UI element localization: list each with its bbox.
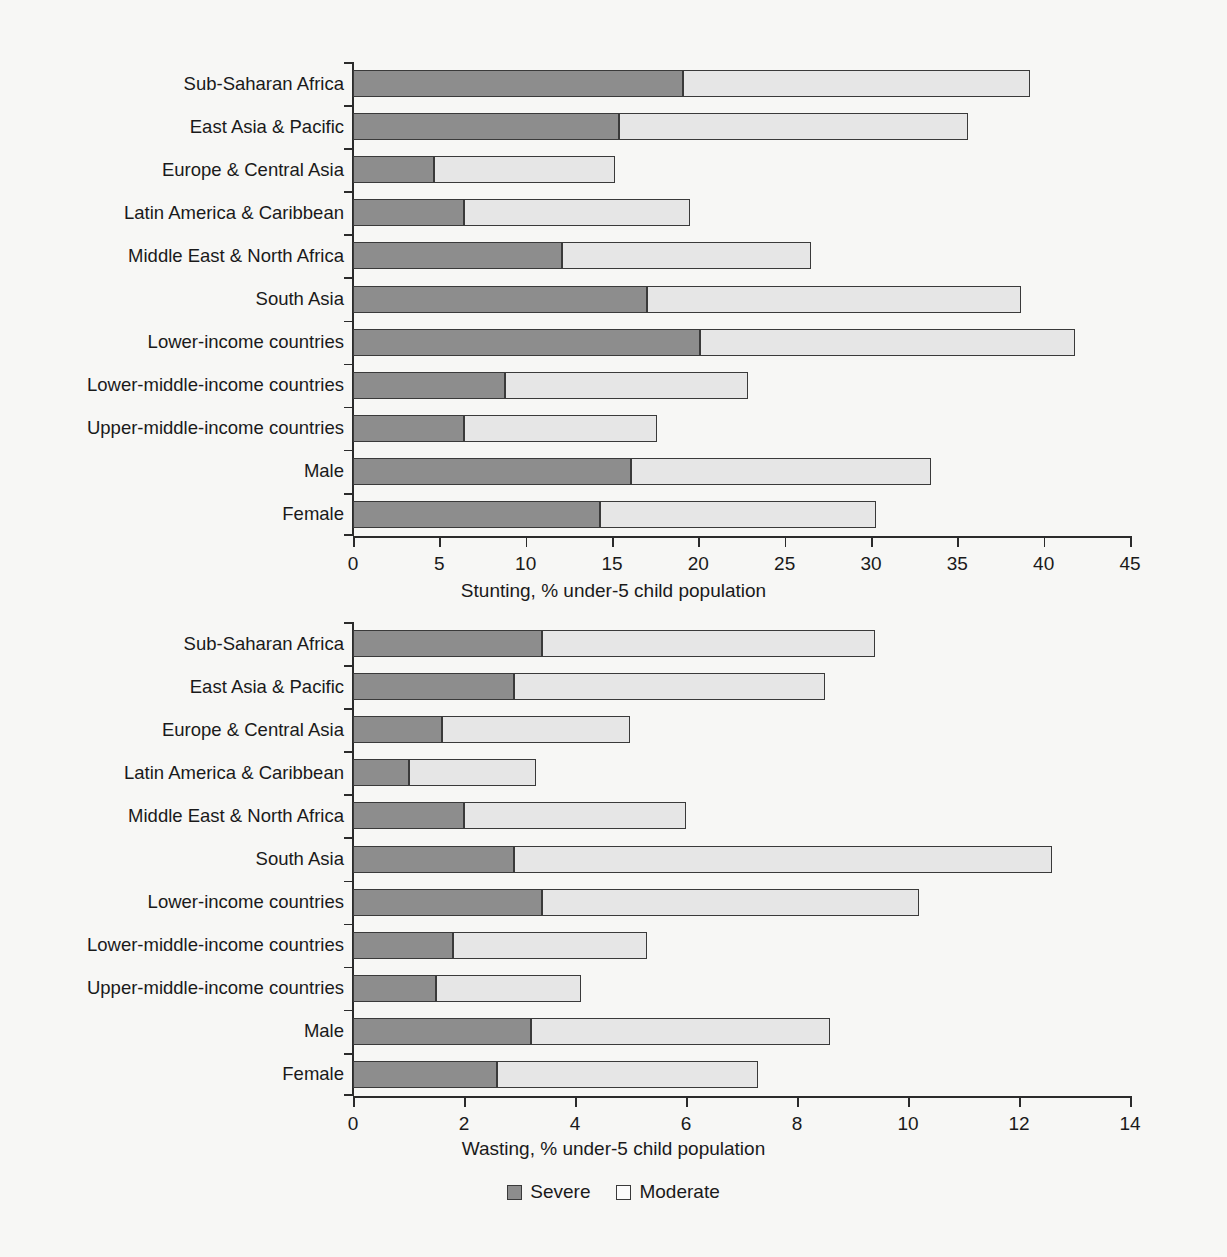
x-axis-tick-label: 35 <box>947 553 968 575</box>
bar-segment-moderate[interactable] <box>434 156 615 183</box>
bar-row: Lower-income countries <box>353 889 1130 916</box>
x-axis-tick-label: 30 <box>860 553 881 575</box>
bar-segment-moderate[interactable] <box>497 1061 758 1088</box>
bar-segment-severe[interactable] <box>353 975 436 1002</box>
legend-swatch-moderate-icon <box>616 1185 631 1200</box>
bar-segment-severe[interactable] <box>353 501 600 528</box>
bar-segment-severe[interactable] <box>353 458 631 485</box>
x-axis-tick-label: 2 <box>459 1113 470 1135</box>
bar-segment-moderate[interactable] <box>464 802 686 829</box>
legend-item-severe[interactable]: Severe <box>507 1181 590 1203</box>
bar-segment-severe[interactable] <box>353 156 434 183</box>
category-label: Lower-income countries <box>148 333 344 352</box>
bar-segment-severe[interactable] <box>353 242 562 269</box>
bar-segment-severe[interactable] <box>353 1061 497 1088</box>
x-axis-tick <box>785 536 787 547</box>
bar-segment-severe[interactable] <box>353 802 464 829</box>
x-axis-tick <box>575 1096 577 1107</box>
x-axis-tick <box>908 1096 910 1107</box>
bar-segment-severe[interactable] <box>353 846 514 873</box>
x-axis-tick <box>1019 1096 1021 1107</box>
bar-segment-severe[interactable] <box>353 889 542 916</box>
bar-segment-severe[interactable] <box>353 415 464 442</box>
bar-segment-severe[interactable] <box>353 1018 531 1045</box>
category-label: Upper-middle-income countries <box>87 979 344 998</box>
category-label: South Asia <box>256 290 344 309</box>
x-axis-tick <box>797 1096 799 1107</box>
bar-segment-severe[interactable] <box>353 70 683 97</box>
bar-segment-moderate[interactable] <box>647 286 1022 313</box>
bar-segment-severe[interactable] <box>353 286 647 313</box>
bar-row: Lower-middle-income countries <box>353 372 1130 399</box>
y-axis-tick <box>344 191 353 193</box>
bar-segment-moderate[interactable] <box>514 673 825 700</box>
y-axis-tick <box>344 837 353 839</box>
category-label: Latin America & Caribbean <box>124 764 344 783</box>
x-axis-tick-label: 4 <box>570 1113 581 1135</box>
bar-segment-moderate[interactable] <box>683 70 1030 97</box>
bar-segment-moderate[interactable] <box>542 889 919 916</box>
bar-segment-severe[interactable] <box>353 329 700 356</box>
bar-segment-moderate[interactable] <box>464 415 657 442</box>
bar-segment-moderate[interactable] <box>514 846 1052 873</box>
bar-segment-moderate[interactable] <box>453 932 647 959</box>
y-axis-tick <box>344 924 353 926</box>
x-axis-tick-label: 45 <box>1119 553 1140 575</box>
bar-row: South Asia <box>353 286 1130 313</box>
bar-segment-moderate[interactable] <box>542 630 875 657</box>
category-label: Female <box>282 505 344 524</box>
legend: SevereModerate <box>0 1181 1227 1203</box>
bar-row: Europe & Central Asia <box>353 156 1130 183</box>
bar-segment-moderate[interactable] <box>505 372 748 399</box>
bar-segment-severe[interactable] <box>353 113 619 140</box>
plot-area-wasting: 02468101214Sub-Saharan AfricaEast Asia &… <box>353 622 1130 1096</box>
chart-wasting: 02468101214Sub-Saharan AfricaEast Asia &… <box>0 608 1227 1168</box>
y-axis-tick <box>344 277 353 279</box>
y-axis-tick <box>344 708 353 710</box>
x-axis-tick-label: 5 <box>434 553 445 575</box>
category-label: South Asia <box>256 850 344 869</box>
x-axis-tick <box>439 536 441 547</box>
bar-segment-moderate[interactable] <box>562 242 811 269</box>
bar-segment-severe[interactable] <box>353 716 442 743</box>
bar-row: Male <box>353 1018 1130 1045</box>
y-axis-tick <box>344 234 353 236</box>
bar-segment-moderate[interactable] <box>600 501 876 528</box>
bar-segment-moderate[interactable] <box>619 113 968 140</box>
bar-segment-severe[interactable] <box>353 199 464 226</box>
bar-segment-severe[interactable] <box>353 759 409 786</box>
bar-row: Upper-middle-income countries <box>353 975 1130 1002</box>
bar-segment-severe[interactable] <box>353 372 505 399</box>
x-axis-tick-label: 10 <box>897 1113 918 1135</box>
category-label: Lower-middle-income countries <box>87 936 344 955</box>
bar-segment-severe[interactable] <box>353 932 453 959</box>
bar-segment-moderate[interactable] <box>464 199 690 226</box>
bar-segment-moderate[interactable] <box>700 329 1075 356</box>
category-label: Europe & Central Asia <box>162 160 344 179</box>
category-label: Female <box>282 1065 344 1084</box>
bar-segment-moderate[interactable] <box>531 1018 831 1045</box>
bar-row: Sub-Saharan Africa <box>353 70 1130 97</box>
y-axis-tick <box>344 105 353 107</box>
x-axis-tick-label: 14 <box>1119 1113 1140 1135</box>
bar-segment-severe[interactable] <box>353 630 542 657</box>
bar-segment-severe[interactable] <box>353 673 514 700</box>
bar-segment-moderate[interactable] <box>436 975 580 1002</box>
bar-row: Lower-middle-income countries <box>353 932 1130 959</box>
bar-segment-moderate[interactable] <box>631 458 931 485</box>
y-axis-tick <box>344 665 353 667</box>
bar-row: Middle East & North Africa <box>353 242 1130 269</box>
x-axis-line <box>353 1096 1131 1098</box>
y-axis-end-tick <box>344 622 353 624</box>
category-label: Male <box>304 1022 344 1041</box>
legend-item-moderate[interactable]: Moderate <box>616 1181 719 1203</box>
bar-segment-moderate[interactable] <box>442 716 631 743</box>
x-axis-tick <box>871 536 873 547</box>
x-axis-title-stunting: Stunting, % under-5 child population <box>0 580 1227 602</box>
x-axis-tick-label: 40 <box>1033 553 1054 575</box>
y-axis-end-tick <box>344 534 353 536</box>
bar-segment-moderate[interactable] <box>409 759 537 786</box>
y-axis-tick <box>344 794 353 796</box>
x-axis-tick-label: 6 <box>681 1113 692 1135</box>
bar-row: South Asia <box>353 846 1130 873</box>
